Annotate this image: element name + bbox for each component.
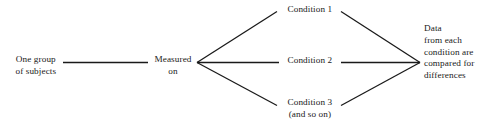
node-data-line-4: compared for	[424, 58, 474, 70]
node-one-group-line-2: of subjects	[16, 66, 57, 78]
node-condition-1: Condition 1	[288, 4, 333, 16]
node-condition-3-label: Condition 3	[288, 97, 333, 109]
node-measured-on: Measured on	[155, 54, 192, 77]
node-data-line-1: Data	[424, 23, 474, 35]
node-condition-1-label: Condition 1	[288, 4, 333, 16]
connector-measured-to-condition-3	[197, 63, 277, 106]
connector-condition-3-to-data	[341, 63, 420, 106]
node-condition-2: Condition 2	[288, 55, 333, 67]
node-data-comparison: Data from each condition are compared fo…	[424, 23, 474, 82]
node-data-line-5: differences	[424, 70, 474, 82]
node-measured-line-2: on	[155, 66, 192, 78]
node-measured-line-1: Measured	[155, 54, 192, 66]
node-condition-2-label: Condition 2	[288, 55, 333, 67]
connector-lines-group	[0, 0, 489, 127]
node-data-line-2: from each	[424, 35, 474, 47]
connector-condition-1-to-data	[341, 12, 420, 63]
node-condition-3: Condition 3 (and so on)	[288, 97, 333, 120]
flowchart-diagram: One group of subjects Measured on Condit…	[0, 0, 489, 127]
node-one-group-of-subjects: One group of subjects	[16, 54, 57, 77]
node-one-group-line-1: One group	[16, 54, 57, 66]
node-data-line-3: condition are	[424, 47, 474, 59]
connector-measured-to-condition-1	[197, 12, 277, 63]
node-condition-3-note: (and so on)	[288, 109, 333, 121]
